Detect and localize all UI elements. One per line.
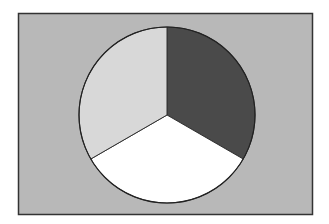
pie-slices <box>79 27 255 203</box>
pie-chart <box>0 0 329 224</box>
